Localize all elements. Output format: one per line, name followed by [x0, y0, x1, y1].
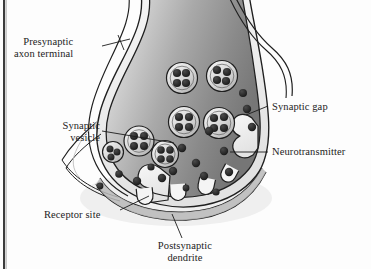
- label-line: vesicle: [14, 132, 100, 144]
- neurotransmitter-dot: [243, 105, 251, 113]
- neurotransmitter-dot: [183, 185, 190, 192]
- neurotransmitter-dot: [220, 124, 228, 132]
- label-line: Postsynaptic: [135, 240, 235, 252]
- neurotransmitter-dot: [182, 69, 190, 77]
- neurotransmitter-dot: [175, 123, 183, 131]
- label-line: Presynaptic: [14, 36, 73, 48]
- neurotransmitter-dot: [185, 123, 193, 131]
- neurotransmitter-dot: [158, 174, 166, 182]
- neurotransmitter-dot: [175, 113, 183, 121]
- neurotransmitter-dot: [220, 113, 228, 121]
- neurotransmitter-dot: [157, 146, 165, 154]
- neurotransmitter-dot: [173, 79, 181, 87]
- synaptic-vesicle: [124, 126, 154, 156]
- neurotransmitter-dot: [108, 154, 115, 161]
- label-line: axon terminal: [14, 48, 73, 60]
- neurotransmitter-dot: [114, 149, 121, 156]
- neurotransmitter-dot: [182, 79, 190, 87]
- synapse-diagram: Presynaptic axon terminal Synaptic vesic…: [0, 0, 371, 269]
- label-line: Neurotransmitter: [272, 146, 345, 158]
- synaptic-vesicle: [103, 142, 124, 163]
- label-line: Receptor site: [44, 209, 100, 221]
- label-postsynaptic-dendrite: Postsynaptic dendrite: [135, 240, 235, 265]
- label-receptor-site: Receptor site: [44, 209, 100, 221]
- neurotransmitter-dot: [213, 66, 221, 74]
- neurotransmitter-dot: [115, 170, 123, 178]
- neurotransmitter-dot: [169, 167, 177, 175]
- neurotransmitter-dot: [147, 163, 154, 170]
- neurotransmitter-dot: [225, 168, 233, 176]
- neurotransmitter-dot: [212, 188, 219, 195]
- neurotransmitter-dot: [97, 183, 104, 190]
- label-synaptic-gap: Synaptic gap: [272, 101, 328, 113]
- neurotransmitter-dot: [133, 177, 141, 185]
- synaptic-vesicle: [169, 107, 200, 138]
- neurotransmitter-dot: [192, 159, 200, 167]
- neurotransmitter-dot: [248, 123, 256, 131]
- neurotransmitter-dot: [223, 68, 231, 76]
- neurotransmitter-dot: [157, 155, 165, 163]
- neurotransmitter-dot: [239, 89, 247, 97]
- label-line: dendrite: [135, 252, 235, 264]
- label-presynaptic-axon-terminal: Presynaptic axon terminal: [14, 36, 73, 61]
- neurotransmitter-dot: [166, 146, 174, 154]
- synaptic-vesicle: [207, 61, 238, 92]
- neurotransmitter-dot: [130, 142, 138, 150]
- label-line: Synaptic gap: [272, 101, 328, 113]
- presynaptic-leader: [102, 39, 130, 46]
- neurotransmitter-dot: [200, 172, 208, 180]
- neurotransmitter-dot: [107, 146, 114, 153]
- neurotransmitter-dot: [210, 114, 218, 122]
- label-neurotransmitter: Neurotransmitter: [272, 146, 345, 158]
- neurotransmitter-dot: [173, 69, 181, 77]
- neurotransmitter-dot: [205, 127, 213, 135]
- synaptic-vesicle: [167, 63, 198, 94]
- neurotransmitter-dot: [220, 147, 228, 155]
- terminal-cytoplasm: [106, 0, 260, 197]
- neurotransmitter-dot: [213, 76, 221, 84]
- neurotransmitter-dot: [166, 155, 174, 163]
- synaptic-vesicle: [152, 141, 179, 168]
- neurotransmitter-dot: [222, 77, 230, 85]
- label-synaptic-vesicle: Synaptic vesicle: [14, 120, 100, 145]
- label-line: Synaptic: [14, 120, 100, 132]
- neurotransmitter-dot: [140, 142, 148, 150]
- neurotransmitter-dot: [178, 144, 186, 152]
- neurotransmitter-dot: [185, 113, 193, 121]
- frame-rule: [3, 0, 7, 269]
